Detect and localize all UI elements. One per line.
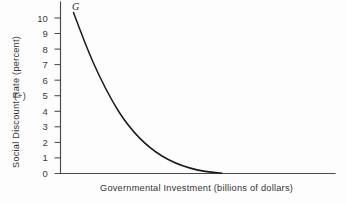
y-tick-label-10: 10 [34,13,48,24]
y-tick-label-7: 7 [34,59,48,70]
y-tick-label-1: 1 [34,152,48,163]
curve-label-g: G [72,1,79,12]
y-tick-label-0: 0 [34,168,48,179]
y-tick-label-3: 3 [34,121,48,132]
x-axis-title: Governmental Investment (billions of dol… [100,183,293,193]
y-tick-label-6: 6 [34,75,48,86]
y-tick-label-5: 5 [34,90,48,101]
y-tick-label-4: 4 [34,106,48,117]
y-tick-label-8: 8 [34,44,48,55]
y-axis-title: Social Discount Rate (percent) [11,36,21,168]
y-tick-label-9: 9 [34,28,48,39]
y-axis-ticks [55,18,61,174]
y-tick-label-2: 2 [34,137,48,148]
chart-plot-area [0,0,346,204]
curve-g [74,13,223,174]
chart-figure: 10 9 8 7 6 5 4 3 2 1 0 (+) Social Discou… [0,0,346,204]
